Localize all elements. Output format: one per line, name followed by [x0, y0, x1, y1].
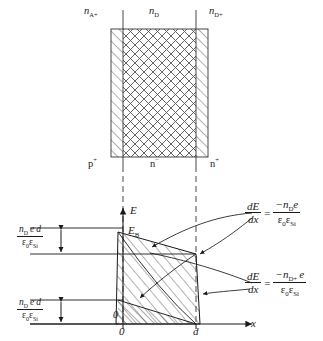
figure-root: nA+ nD nD+ p+ n− n+ E EB 0 0 d x nD e d … — [0, 0, 323, 341]
field-plot — [30, 208, 252, 329]
peak-label-eb: EB — [128, 225, 139, 239]
left-bracket-label-upper: nD e d ε0εSi — [4, 224, 56, 249]
device-block — [111, 29, 208, 157]
left-bracket-label-lower: nD e d ε0εSi — [4, 297, 56, 322]
equation-slope-n-plus-region: dE dx = −nD+ e ε0εSi — [245, 268, 306, 297]
device-label-nd: nD — [149, 6, 159, 19]
y-axis-label: E — [130, 205, 137, 216]
device-label-na-plus: nA+ — [84, 6, 98, 19]
device-label-n-plus: n+ — [210, 157, 219, 169]
x-tick-label-0: 0 — [119, 326, 125, 337]
origin-inner-label: 0 — [113, 310, 118, 321]
device-label-n-minus: n− — [150, 157, 159, 169]
x-axis-label: x — [251, 318, 256, 329]
equation-relation-1: = — [264, 207, 270, 219]
equation-slope-n-region: dE dx = −nDe ε0εSi — [245, 198, 300, 227]
x-tick-label-d: d — [193, 326, 199, 337]
device-label-p-plus: p+ — [88, 157, 97, 169]
equation-relation-2: = — [264, 277, 270, 289]
device-label-nd-plus: nD+ — [209, 6, 223, 19]
